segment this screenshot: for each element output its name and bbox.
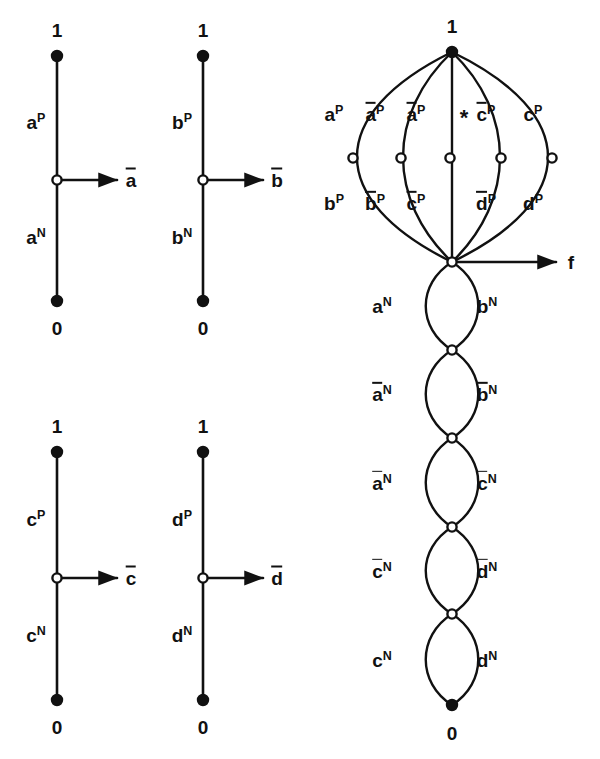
chain-node[interactable] [447, 609, 456, 618]
formula-bottom-node[interactable] [447, 700, 458, 711]
formula-terminal-zero: 0 [447, 724, 458, 743]
formula-top-node[interactable] [447, 47, 458, 58]
gadget-output-label: d [271, 569, 283, 588]
melon-lower-label: dP [523, 193, 543, 213]
gadget-top-node[interactable] [198, 51, 209, 62]
chain-left-label: cN [372, 560, 392, 580]
gadget-bottom-node[interactable] [52, 695, 63, 706]
chain-left-label: aN [372, 384, 392, 404]
gadget-lower-edge-label: dN [172, 625, 193, 645]
gadget-a [52, 51, 117, 307]
formula-graph-layer [348, 47, 556, 711]
melon-upper-label: cP [524, 104, 543, 124]
gadget-layer [52, 51, 263, 706]
diagram-svg [0, 0, 600, 759]
gadget-bottom-node[interactable] [198, 296, 209, 307]
chain-right-label: dN [477, 649, 498, 669]
melon-upper-label: aP [407, 104, 426, 124]
gadget-lower-edge-label: cN [26, 625, 46, 645]
chain-arc-left [426, 262, 452, 350]
chain-left-label: aN [372, 296, 392, 316]
formula-hub-node[interactable] [447, 257, 456, 266]
melon-upper-label: cP [477, 104, 496, 124]
gadget-terminal-zero: 0 [52, 718, 63, 737]
asterisk-marker: * [460, 107, 469, 129]
gadget-output-label: a [126, 171, 137, 190]
melon-arc-node[interactable] [396, 153, 405, 162]
gadget-terminal-one: 1 [198, 21, 209, 40]
chain-left-label: aN [372, 472, 392, 492]
chain-arc-right [452, 614, 478, 705]
gadget-terminal-one: 1 [52, 417, 63, 436]
gadget-mid-node[interactable] [198, 175, 207, 184]
melon-upper-label: aP [366, 104, 385, 124]
gadget-output-label: b [271, 171, 283, 190]
melon-lower-label: dP [476, 193, 496, 213]
melon-arc [452, 52, 500, 262]
melon-lower-label: bP [365, 193, 385, 213]
gadget-output-label: c [126, 569, 137, 588]
chain-right-label: bN [477, 384, 498, 404]
gadget-c [52, 447, 117, 706]
gadget-terminal-zero: 0 [198, 718, 209, 737]
formula-output-label: f [568, 253, 574, 272]
melon-lower-label: cP [407, 193, 426, 213]
chain-node[interactable] [447, 433, 456, 442]
chain-arc-left [426, 527, 452, 614]
gadget-bottom-node[interactable] [52, 296, 63, 307]
gadget-upper-edge-label: cP [27, 509, 46, 529]
melon-arc-node[interactable] [445, 153, 454, 162]
gadget-mid-node[interactable] [52, 175, 61, 184]
gadget-mid-node[interactable] [198, 573, 207, 582]
gadget-upper-edge-label: bP [172, 112, 192, 132]
gadget-terminal-one: 1 [52, 21, 63, 40]
gadget-bottom-node[interactable] [198, 695, 209, 706]
chain-arc-left [426, 438, 452, 527]
chain-arc-right [452, 438, 478, 527]
chain-arc-right [452, 262, 478, 350]
melon-upper-label: aP [325, 104, 344, 124]
chain-node[interactable] [447, 522, 456, 531]
chain-arc-left [426, 350, 452, 438]
chain-arc-right [452, 527, 478, 614]
gadget-terminal-zero: 0 [198, 319, 209, 338]
chain-right-label: bN [477, 296, 498, 316]
melon-arc-node[interactable] [348, 153, 357, 162]
gadget-upper-edge-label: aP [27, 112, 46, 132]
diagram-canvas: 10aPaNa10bPbNb10cPcNc10dPdNdaPbPaPbPaPcP… [0, 0, 600, 759]
gadget-top-node[interactable] [52, 51, 63, 62]
gadget-top-node[interactable] [198, 447, 209, 458]
melon-arc-node[interactable] [496, 153, 505, 162]
gadget-lower-edge-label: aN [26, 226, 46, 246]
chain-left-label: cN [372, 649, 392, 669]
chain-arc-left [426, 614, 452, 705]
melon-lower-label: bP [324, 193, 344, 213]
gadget-top-node[interactable] [52, 447, 63, 458]
gadget-terminal-one: 1 [198, 417, 209, 436]
melon-arc-node[interactable] [547, 153, 556, 162]
chain-arc-right [452, 350, 478, 438]
gadget-b [198, 51, 263, 307]
chain-right-label: dN [477, 560, 498, 580]
formula-terminal-one: 1 [447, 17, 458, 36]
gadget-mid-node[interactable] [52, 573, 61, 582]
gadget-lower-edge-label: bN [172, 226, 193, 246]
gadget-terminal-zero: 0 [52, 319, 63, 338]
gadget-d [198, 447, 263, 706]
gadget-upper-edge-label: dP [172, 509, 192, 529]
chain-node[interactable] [447, 345, 456, 354]
chain-right-label: cN [477, 472, 497, 492]
